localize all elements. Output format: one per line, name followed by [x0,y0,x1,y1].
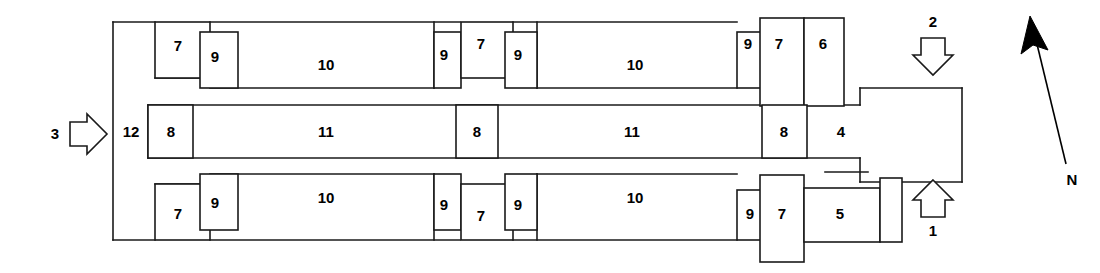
zone-bot-narrow [880,178,902,242]
north-arrow-tail [1036,40,1066,164]
label-bot-5: 5 [836,205,844,222]
label-mid-8-right: 8 [780,123,788,140]
label-top-9-right: 9 [744,35,752,52]
label-bot-9-midright: 9 [514,196,522,213]
label-north: N [1067,171,1078,188]
label-flow-arrow-2: 2 [929,13,937,30]
label-mid-8-left: 8 [167,123,175,140]
label-top-10-left: 10 [318,56,335,73]
label-mid-11-left: 11 [318,123,334,140]
zone-top-6 [804,18,844,106]
label-top-7-right: 7 [775,35,783,52]
label-top-9-midleft: 9 [440,46,448,63]
label-mid-12: 12 [123,123,140,140]
label-mid-4: 4 [837,123,846,140]
flow-arrow-3-glyph [70,114,107,154]
label-top-6: 6 [819,35,827,52]
label-bot-7-left: 7 [174,205,182,222]
label-top-9-midright: 9 [514,46,522,63]
label-bot-9-midleft: 9 [440,196,448,213]
label-bot-9-left: 9 [211,194,219,211]
label-flow-arrow-3: 3 [51,125,59,142]
label-flow-arrow-1: 1 [929,222,937,239]
zone-top-7-right [760,18,804,106]
label-top-10-right: 10 [627,56,644,73]
label-top-7-mid: 7 [477,35,485,52]
label-bot-9-right: 9 [746,205,754,222]
label-mid-8-mid: 8 [473,123,481,140]
north-arrow-icon [1021,16,1048,54]
diagram-root: 7 9 10 9 7 9 10 9 7 6 12 8 11 8 11 8 4 7… [0,0,1100,273]
label-top-9-left: 9 [211,48,219,65]
label-bot-7-right: 7 [778,205,786,222]
label-mid-11-right: 11 [624,123,640,140]
flow-arrow-1-glyph [913,180,953,217]
flow-arrow-2-glyph [913,38,953,75]
floor-plan-svg: 7 9 10 9 7 9 10 9 7 6 12 8 11 8 11 8 4 7… [0,0,1100,273]
label-bot-7-mid: 7 [477,207,485,224]
label-top-7-left: 7 [174,37,182,54]
label-bot-10-right: 10 [627,189,644,206]
label-bot-10-left: 10 [318,189,335,206]
